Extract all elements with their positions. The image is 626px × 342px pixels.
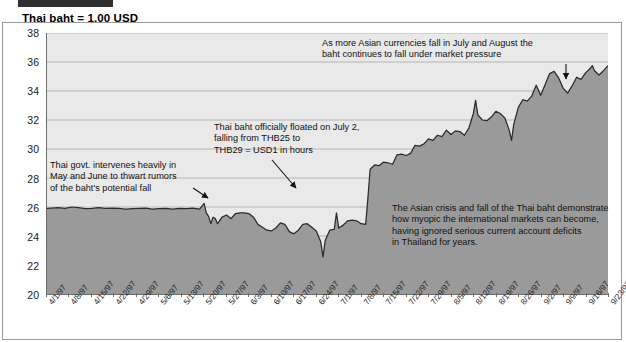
x-axis-tickmark: [383, 293, 384, 297]
x-axis-tickmark: [518, 293, 519, 297]
annotation-asian-crisis: The Asian crisis and fall of the Thai ba…: [392, 203, 608, 249]
x-axis-tickmark: [338, 293, 339, 297]
x-axis-tickmark: [361, 293, 362, 297]
y-axis-tick-26: 26: [27, 202, 39, 214]
y-axis-tick-30: 30: [27, 143, 39, 155]
x-axis-tickmark: [428, 293, 429, 297]
x-axis-tickmark: [496, 293, 497, 297]
x-axis-tickmark: [113, 293, 114, 297]
y-axis-tick-22: 22: [27, 260, 39, 272]
x-axis-tickmark: [226, 293, 227, 297]
chart-figure: Thai baht = 1.00 USD 2022242628303234363…: [0, 0, 626, 342]
x-axis-tickmark: [406, 293, 407, 297]
x-axis-tickmark: [316, 293, 317, 297]
x-axis-tickmark: [203, 293, 204, 297]
y-axis-tick-28: 28: [27, 173, 39, 185]
y-axis-tick-24: 24: [27, 231, 39, 243]
x-axis-tickmark: [563, 293, 564, 297]
x-axis-tickmark: [91, 293, 92, 297]
y-axis-tick-34: 34: [27, 85, 39, 97]
y-axis-tick-32: 32: [27, 114, 39, 126]
annotation-baht-floated: Thai baht officially floated on July 2, …: [214, 122, 359, 156]
y-axis-labels: 20222426283032343638: [0, 33, 44, 295]
x-axis-tickmark: [68, 293, 69, 297]
x-axis-tickmark: [136, 293, 137, 297]
x-axis-tickmark: [608, 293, 609, 297]
x-axis-labels: 4/1/974/8/974/15/974/22/974/29/975/6/975…: [46, 297, 608, 342]
x-axis-tickmark: [248, 293, 249, 297]
x-axis-tickmark: [293, 293, 294, 297]
x-axis-tickmark: [541, 293, 542, 297]
x-axis-tickmark: [181, 293, 182, 297]
annotation-govt-intervenes: Thai govt. intervenes heavily in May and…: [50, 160, 177, 194]
annotation-july-august-fall: As more Asian currencies fall in July an…: [322, 38, 533, 61]
x-axis-tickmark: [586, 293, 587, 297]
decorative-black-bar: [18, 0, 113, 7]
x-axis-tickmark: [271, 293, 272, 297]
x-axis-tickmark: [473, 293, 474, 297]
x-axis-tickmark: [451, 293, 452, 297]
x-axis-tickmark: [158, 293, 159, 297]
y-axis-tick-36: 36: [27, 56, 39, 68]
y-axis-tick-20: 20: [27, 289, 39, 301]
y-axis-tick-38: 38: [27, 27, 39, 39]
x-axis-tickmark: [46, 293, 47, 297]
